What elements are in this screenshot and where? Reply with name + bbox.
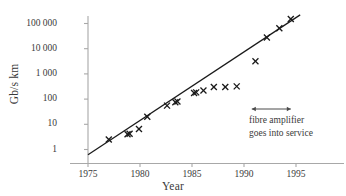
y-axis-label: Gb/s km [8, 54, 20, 114]
arrow-head [287, 107, 291, 111]
x-axis-label: Year [0, 180, 346, 192]
y-axis-ticks [84, 24, 88, 150]
y-tick-label-text: 100 000 [26, 19, 57, 29]
x-tick-label: 1985 [172, 170, 212, 180]
data-point-x-marker [276, 25, 282, 31]
y-tick-label-text: 1 000 [36, 69, 57, 79]
x-tick-label: 1975 [68, 170, 108, 180]
y-tick-label-text: 10 000 [31, 44, 57, 54]
y-tick-label: 1 [0, 145, 57, 155]
chart-figure: Gb/s km Year 1101001 00010 000100 000 19… [0, 0, 346, 196]
x-tick-label: 1980 [120, 170, 160, 180]
y-tick-label: 100 000 [0, 19, 57, 29]
y-tick-label-text: 10 [48, 119, 58, 129]
y-tick-label: 100 [0, 94, 57, 104]
data-point-x-marker [211, 84, 217, 90]
y-tick-label: 10 [0, 119, 57, 129]
fibre-amplifier-arrow-icon [252, 107, 291, 111]
data-point-x-marker [234, 83, 240, 89]
annotation-line-2: goes into service [249, 127, 313, 140]
y-tick-label: 1 000 [0, 69, 57, 79]
data-point-x-marker [222, 84, 228, 90]
y-tick-label: 10 000 [0, 44, 57, 54]
y-tick-label-text: 100 [43, 94, 57, 104]
x-tick-label: 1995 [276, 170, 316, 180]
data-point-x-marker [164, 103, 170, 109]
fibre-amplifier-annotation: fibre amplifier goes into service [249, 114, 313, 139]
annotation-line-1: fibre amplifier [249, 114, 313, 127]
data-point-x-marker [200, 87, 206, 93]
data-point-x-marker [136, 126, 142, 132]
arrow-head [252, 107, 256, 111]
y-tick-label-text: 1 [52, 145, 57, 155]
data-point-x-marker [264, 34, 270, 40]
x-tick-label: 1990 [224, 170, 264, 180]
data-point-x-marker [252, 58, 258, 64]
